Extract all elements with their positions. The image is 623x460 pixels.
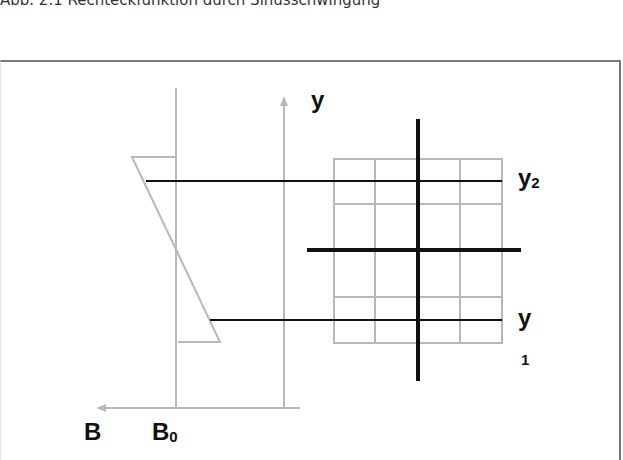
y1-label-subscript: 1 <box>521 352 529 367</box>
y2-label: y2 <box>518 166 540 190</box>
b0-label-sub: 0 <box>169 428 177 445</box>
y2-label-main: y <box>518 164 531 191</box>
b-axis-label: B <box>84 420 101 444</box>
y1-label-sub: 1 <box>521 351 529 368</box>
y-axis-label: y <box>311 88 324 112</box>
y1-label: y <box>518 306 531 330</box>
y1-label-main: y <box>518 304 531 331</box>
y-axis-label-text: y <box>311 86 324 113</box>
b0-label-main: B <box>152 418 169 445</box>
y-axis-arrow <box>280 96 288 408</box>
b0-label: B0 <box>152 420 178 444</box>
b-axis-arrow <box>96 404 300 412</box>
b-axis-label-text: B <box>84 418 101 445</box>
y2-label-sub: 2 <box>531 174 539 191</box>
